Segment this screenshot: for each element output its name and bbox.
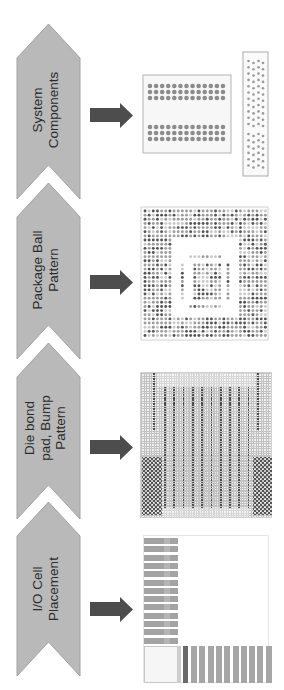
edge-pad-column [153,373,155,431]
step-label-line: Placement [45,524,61,654]
arrow-right-icon [90,435,133,460]
bump-column [229,387,231,508]
corner-bump-cluster [142,457,162,515]
step-label-line: I/O Cell [30,524,46,654]
io-cell [257,646,263,683]
io-cell [241,646,247,683]
io-cell [199,646,205,683]
arrow-right-icon [90,597,133,622]
step-label-die-bond-pad-bump-pattern: Die bond pad, Bump Pattern [22,363,69,493]
step-label-line: Pattern [53,363,69,493]
bump-column [173,387,175,508]
bump-column [211,387,213,508]
arrow-right-icon [90,270,133,295]
io-cell [144,629,178,635]
die-bond-pad-bump-diagram [140,372,272,518]
io-cell [144,555,178,561]
system-components-diagram [140,48,274,180]
step-label-line: Package Ball [30,205,46,335]
io-cell [216,646,222,683]
io-cell [249,646,255,683]
io-cell [266,646,272,683]
io-cell [144,588,178,594]
io-cell [144,571,178,577]
io-cell [224,646,230,683]
io-cell [144,604,178,610]
io-filler-cell [178,646,181,683]
io-cell [144,546,178,552]
step-label-io-cell-placement: I/O Cell Placement [30,524,61,654]
io-cell [144,621,178,627]
step-label-line: Pattern [45,205,61,335]
step-label-line: pad, Bump [37,363,53,493]
io-cell [208,646,214,683]
bump-column [238,387,240,508]
step-label-line: System [30,45,46,175]
io-cell [191,646,197,683]
step-label-system-components: System Components [30,45,61,175]
step-label-package-ball-pattern: Package Ball Pattern [30,205,61,335]
edge-pad-column [257,373,259,431]
step-label-line: Components [45,45,61,175]
io-cell-highlighted [183,646,188,683]
bump-column [201,387,203,508]
pad-ring-top [157,373,255,387]
bump-column [183,387,185,508]
step-label-line: Die bond [22,363,38,493]
io-cell [144,538,178,544]
connector-footprint [243,52,268,176]
io-cell-placement-diagram [143,535,269,683]
io-cell [144,638,178,644]
corner-bump-cluster [253,457,272,515]
corner-cell [144,646,178,683]
pad-ring-bottom [163,507,249,517]
io-cell [144,596,178,602]
io-cell [233,646,239,683]
bump-column [248,387,250,508]
arrow-right-icon [90,103,133,128]
pcb-board-footprint [143,75,231,153]
package-ball-pattern-diagram [140,206,270,342]
io-cell [144,613,178,619]
bump-column [220,387,222,508]
bump-column [192,387,194,508]
bump-column [164,387,166,508]
io-cell [144,563,178,569]
io-cell [144,580,178,586]
